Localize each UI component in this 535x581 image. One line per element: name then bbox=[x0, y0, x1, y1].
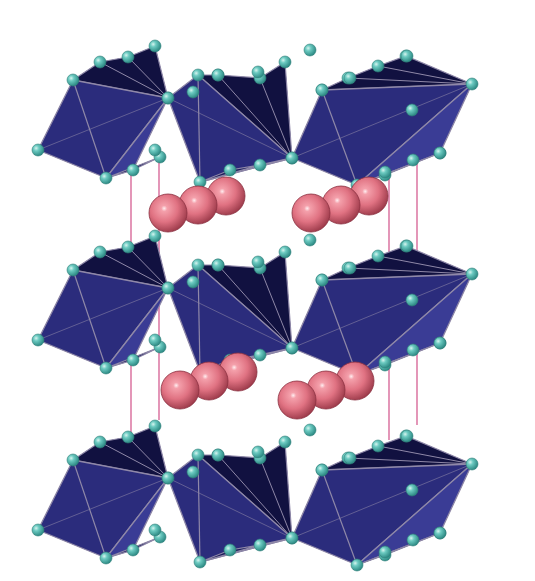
crystal-structure-figure: Layered perovskite crystal structure: th… bbox=[0, 0, 535, 581]
anion-sphere bbox=[32, 334, 44, 346]
anion-sphere bbox=[192, 259, 204, 271]
bottom-slab bbox=[32, 420, 478, 571]
cation-sphere bbox=[149, 194, 187, 232]
anion-sphere bbox=[434, 527, 446, 539]
anion-sphere bbox=[401, 240, 413, 252]
anion-sphere bbox=[401, 50, 413, 62]
anion-sphere bbox=[466, 78, 478, 90]
anion-sphere bbox=[192, 449, 204, 461]
anion-sphere bbox=[286, 532, 298, 544]
anion-sphere bbox=[122, 431, 134, 443]
octahedron bbox=[32, 420, 174, 564]
anion-sphere bbox=[149, 420, 161, 432]
anion-sphere bbox=[434, 147, 446, 159]
anion-sphere bbox=[149, 524, 161, 536]
anion-sphere bbox=[122, 51, 134, 63]
anion-sphere bbox=[187, 466, 199, 478]
middle-slab bbox=[32, 230, 478, 381]
anion-sphere bbox=[192, 69, 204, 81]
anion-sphere bbox=[351, 559, 363, 571]
anion-sphere bbox=[67, 74, 79, 86]
anion-sphere bbox=[194, 556, 206, 568]
octahedron bbox=[162, 56, 298, 188]
anion-sphere bbox=[372, 250, 384, 262]
anion-sphere bbox=[316, 464, 328, 476]
anion-sphere bbox=[122, 241, 134, 253]
octahedral-slabs bbox=[32, 40, 478, 571]
anion-sphere bbox=[187, 276, 199, 288]
anion-sphere bbox=[67, 264, 79, 276]
structure-canvas bbox=[0, 0, 535, 581]
anion-sphere bbox=[127, 164, 139, 176]
anion-sphere bbox=[406, 484, 418, 496]
anion-sphere bbox=[32, 524, 44, 536]
anion-sphere bbox=[406, 294, 418, 306]
anion-sphere bbox=[127, 354, 139, 366]
anion-sphere bbox=[100, 362, 112, 374]
anion-sphere bbox=[279, 56, 291, 68]
anion-sphere bbox=[379, 356, 391, 368]
anion-sphere bbox=[304, 44, 316, 56]
anion-sphere bbox=[434, 337, 446, 349]
anion-sphere bbox=[316, 84, 328, 96]
anion-sphere bbox=[344, 262, 356, 274]
anion-sphere bbox=[212, 449, 224, 461]
cation-sphere bbox=[161, 371, 199, 409]
anion-sphere bbox=[100, 552, 112, 564]
anion-sphere bbox=[127, 544, 139, 556]
anion-sphere bbox=[100, 172, 112, 184]
anion-sphere bbox=[466, 268, 478, 280]
anion-sphere bbox=[224, 164, 236, 176]
anion-sphere bbox=[344, 72, 356, 84]
anion-sphere bbox=[162, 282, 174, 294]
anion-sphere bbox=[407, 534, 419, 546]
top-slab bbox=[32, 40, 478, 191]
anion-sphere bbox=[162, 472, 174, 484]
anion-sphere bbox=[254, 539, 266, 551]
anion-sphere bbox=[304, 234, 316, 246]
cation-sphere bbox=[278, 381, 316, 419]
octahedron bbox=[32, 230, 174, 374]
anion-sphere bbox=[162, 92, 174, 104]
anion-sphere bbox=[379, 546, 391, 558]
cation-row-upper-right bbox=[292, 177, 388, 232]
anion-sphere bbox=[406, 104, 418, 116]
cation-sphere bbox=[292, 194, 330, 232]
anion-sphere bbox=[379, 166, 391, 178]
anion-sphere bbox=[252, 446, 264, 458]
anion-sphere bbox=[94, 246, 106, 258]
anion-sphere bbox=[254, 159, 266, 171]
anion-sphere bbox=[149, 40, 161, 52]
anion-sphere bbox=[67, 454, 79, 466]
anion-sphere bbox=[344, 452, 356, 464]
anion-sphere bbox=[466, 458, 478, 470]
anion-sphere bbox=[224, 544, 236, 556]
anion-sphere bbox=[212, 259, 224, 271]
anion-sphere bbox=[401, 430, 413, 442]
anion-sphere bbox=[187, 86, 199, 98]
cation-row-lower-right bbox=[278, 362, 374, 419]
anion-sphere bbox=[252, 256, 264, 268]
anion-sphere bbox=[407, 154, 419, 166]
octahedron bbox=[162, 436, 298, 568]
anion-sphere bbox=[252, 66, 264, 78]
anion-sphere bbox=[94, 436, 106, 448]
anion-sphere bbox=[372, 440, 384, 452]
anion-sphere bbox=[286, 342, 298, 354]
anion-sphere bbox=[94, 56, 106, 68]
anion-sphere bbox=[286, 152, 298, 164]
anion-sphere bbox=[304, 424, 316, 436]
anion-sphere bbox=[149, 144, 161, 156]
anion-sphere bbox=[407, 344, 419, 356]
anion-sphere bbox=[212, 69, 224, 81]
anion-sphere bbox=[254, 349, 266, 361]
anion-sphere bbox=[316, 274, 328, 286]
octahedron bbox=[32, 40, 174, 184]
anion-sphere bbox=[279, 246, 291, 258]
anion-sphere bbox=[279, 436, 291, 448]
anion-sphere bbox=[372, 60, 384, 72]
anion-sphere bbox=[149, 334, 161, 346]
anion-sphere bbox=[149, 230, 161, 242]
anion-sphere bbox=[32, 144, 44, 156]
